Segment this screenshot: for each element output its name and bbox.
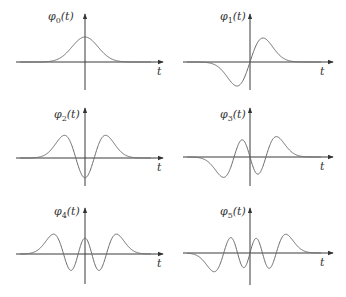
- function-label: φ2(t): [54, 108, 80, 123]
- panel-phi-1: φ1(t)t: [183, 10, 333, 90]
- x-axis-label: t: [157, 257, 162, 270]
- x-axis-label: t: [320, 160, 325, 173]
- function-label: φ5(t): [220, 205, 246, 220]
- function-label: φ0(t): [48, 10, 74, 25]
- panel-phi-0: φ0(t)t: [16, 10, 163, 90]
- function-label: φ4(t): [54, 205, 80, 220]
- hermite-functions-figure: φ0(t)tφ1(t)tφ2(t)tφ3(t)tφ4(t)tφ5(t)t: [0, 0, 346, 297]
- x-axis-label: t: [157, 65, 162, 78]
- x-axis-label: t: [157, 161, 162, 174]
- function-label: φ1(t): [220, 10, 246, 25]
- function-label: φ3(t): [220, 108, 246, 123]
- x-axis-label: t: [320, 256, 325, 269]
- panel-phi-5: φ5(t)t: [183, 205, 333, 285]
- panel-phi-3: φ3(t)t: [183, 108, 333, 186]
- panel-phi-4: φ4(t)t: [16, 205, 163, 284]
- panel-phi-2: φ2(t)t: [16, 108, 163, 186]
- x-axis-label: t: [320, 65, 325, 78]
